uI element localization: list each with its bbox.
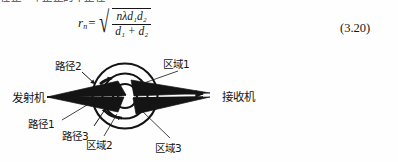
rx-second-ray bbox=[133, 97, 203, 98]
square-root-group: √ nλd₁d₂ d₁ + d₂ bbox=[99, 8, 151, 38]
formula-lhs-subscript: n bbox=[83, 22, 87, 31]
tx-ray-lobe-lower bbox=[47, 97, 124, 112]
leader-zone2 bbox=[104, 114, 117, 136]
leader-path2 bbox=[82, 72, 95, 84]
clipped-text-line: 在正一个正正的十正在 bbox=[0, 0, 120, 3]
leader-zone3 bbox=[141, 110, 170, 138]
label-path1: 路径1 bbox=[28, 118, 55, 130]
label-receiver: 接收机 bbox=[222, 90, 256, 104]
label-path2: 路径2 bbox=[55, 60, 82, 72]
formula-lhs: rn bbox=[78, 15, 87, 31]
rx-ray-lobe-lower bbox=[133, 97, 210, 114]
diagram-canvas: 发射机 接收机 路径2 路径1 路径3 区域1 区域2 区域3 bbox=[0, 48, 398, 162]
radical-icon: √ bbox=[99, 7, 109, 37]
fraction-numerator: nλd₁d₂ bbox=[114, 10, 150, 23]
fraction-denominator: d₁ + d₂ bbox=[112, 25, 151, 38]
fresnel-radius-formula: rn = √ nλd₁d₂ d₁ + d₂ bbox=[78, 8, 151, 38]
equation-number: (3.20) bbox=[340, 21, 370, 36]
label-zone3: 区域3 bbox=[155, 142, 182, 154]
fresnel-zone-diagram: 发射机 接收机 路径2 路径1 路径3 区域1 区域2 区域3 bbox=[0, 48, 398, 162]
leader-path1 bbox=[62, 102, 92, 120]
label-zone1: 区域1 bbox=[163, 58, 190, 70]
equals-sign: = bbox=[88, 15, 95, 31]
figure-page: 在正一个正正的十正在 rn = √ nλd₁d₂ d₁ + d₂ (3.20) bbox=[0, 0, 398, 162]
label-zone2: 区域2 bbox=[86, 139, 113, 151]
label-transmitter: 发射机 bbox=[12, 91, 46, 105]
label-path3: 路径3 bbox=[62, 130, 89, 142]
fraction-group: nλd₁d₂ d₁ + d₂ bbox=[112, 8, 151, 38]
equation-row: rn = √ nλd₁d₂ d₁ + d₂ (3.20) bbox=[0, 8, 398, 48]
